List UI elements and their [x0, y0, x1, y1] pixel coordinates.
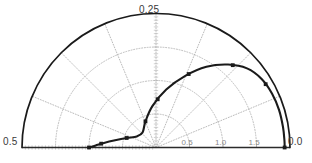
data-point-marker: [99, 142, 103, 146]
data-point-marker: [144, 120, 148, 124]
angle-label-right: 0.0: [288, 136, 303, 147]
angle-label-left: 0.5: [3, 136, 18, 147]
data-point-marker: [283, 146, 287, 150]
data-point-marker: [87, 146, 91, 150]
data-point-marker: [187, 72, 191, 76]
data-point-marker: [264, 82, 268, 86]
data-point-marker: [156, 97, 160, 101]
data-point-marker-group: [87, 63, 286, 149]
data-point-marker: [125, 136, 129, 140]
polar-chart: 0.25 0.5 0.0 0.51.01.5: [0, 0, 312, 163]
radial-tick-label: 0.5: [182, 138, 193, 147]
radial-tick-label: 1.0: [215, 138, 226, 147]
grid-spoke-67.5: [156, 24, 207, 147]
grid-spoke-157.5: [33, 96, 156, 147]
polar-grid: [25, 14, 279, 150]
radial-minor-tick-group: [25, 17, 256, 150]
data-point-marker: [231, 63, 235, 67]
angle-label-top: 0.25: [139, 4, 159, 15]
radial-tick-label: 1.5: [249, 138, 260, 147]
polar-plot-canvas: [0, 0, 312, 163]
